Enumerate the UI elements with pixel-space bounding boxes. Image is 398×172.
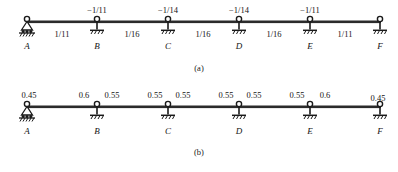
moment-coefficient-d-a: −1/14 bbox=[229, 6, 249, 15]
shear-coefficient-e-left: 0.55 bbox=[290, 91, 305, 100]
support-f-b bbox=[373, 101, 387, 119]
node-label-b-b: B bbox=[94, 127, 100, 136]
support-e-b bbox=[303, 101, 317, 119]
shear-coefficient-d-left: 0.55 bbox=[219, 91, 234, 100]
support-d-b bbox=[232, 101, 246, 119]
shear-coefficient-f-left: 0.45 bbox=[371, 94, 386, 103]
span-coefficient-bc: 1/16 bbox=[124, 30, 139, 39]
span-coefficient-ab: 1/11 bbox=[55, 30, 70, 39]
node-label-e-b: E bbox=[307, 127, 313, 136]
support-a bbox=[19, 16, 35, 36]
beam-diagram-b bbox=[0, 86, 398, 172]
shear-coefficient-b-left: 0.6 bbox=[79, 91, 90, 100]
node-label-d-b: D bbox=[236, 127, 243, 136]
moment-coefficient-c-a: −1/14 bbox=[158, 6, 178, 15]
node-label-b: B bbox=[94, 42, 100, 51]
support-b bbox=[90, 16, 104, 34]
shear-coefficient-d-right: 0.55 bbox=[247, 91, 262, 100]
figure-a-distribution-factors: −1/11 −1/14 −1/14 −1/11 1/11 1/16 1/16 1… bbox=[0, 0, 398, 86]
shear-coefficient-b-right: 0.55 bbox=[105, 91, 120, 100]
moment-coefficient-b-a: −1/11 bbox=[87, 6, 107, 15]
shear-coefficient-a-right: 0.45 bbox=[22, 91, 37, 100]
figure-b-shear-coefficients: 0.45 0.6 0.55 0.55 0.55 0.55 0.55 0.55 0… bbox=[0, 86, 398, 172]
support-f bbox=[373, 16, 387, 34]
support-a-b bbox=[19, 101, 35, 121]
node-label-f-b: F bbox=[377, 127, 383, 136]
span-coefficient-ef: 1/11 bbox=[338, 30, 353, 39]
shear-coefficient-c-left: 0.55 bbox=[148, 91, 163, 100]
shear-coefficient-c-right: 0.55 bbox=[176, 91, 191, 100]
node-label-c: C bbox=[165, 42, 171, 51]
node-label-e: E bbox=[307, 42, 313, 51]
moment-coefficient-e-a: −1/11 bbox=[300, 6, 320, 15]
node-label-a: A bbox=[24, 42, 30, 51]
node-label-f: F bbox=[377, 42, 383, 51]
node-label-c-b: C bbox=[165, 127, 171, 136]
shear-coefficient-e-right: 0.6 bbox=[320, 91, 331, 100]
beam-line-b bbox=[26, 106, 381, 109]
beam-diagram-a bbox=[0, 0, 398, 86]
span-coefficient-de: 1/16 bbox=[266, 30, 281, 39]
support-c-b bbox=[161, 101, 175, 119]
support-c bbox=[161, 16, 175, 34]
node-label-a-b: A bbox=[24, 127, 30, 136]
node-label-d: D bbox=[236, 42, 243, 51]
support-b-b bbox=[90, 101, 104, 119]
beam-line-a bbox=[26, 21, 381, 24]
span-coefficient-cd: 1/16 bbox=[195, 30, 210, 39]
caption-a: (a) bbox=[194, 63, 203, 73]
support-d bbox=[232, 16, 246, 34]
caption-b: (b) bbox=[194, 147, 204, 157]
support-e bbox=[303, 16, 317, 34]
